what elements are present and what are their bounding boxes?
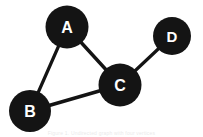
- graph-node-label-d: D: [167, 28, 178, 45]
- graph-node-label-a: A: [61, 19, 73, 36]
- graph-nodes-layer: ABCD: [9, 6, 191, 133]
- graph-node-b[interactable]: B: [9, 90, 51, 132]
- graph-node-c[interactable]: C: [99, 64, 142, 107]
- graph-figure: ABCD Figure 1. Undirected graph with fou…: [0, 0, 203, 137]
- graph-node-d[interactable]: D: [153, 17, 191, 55]
- graph-node-label-c: C: [114, 77, 126, 94]
- graph-node-label-b: B: [24, 103, 36, 120]
- graph-canvas: ABCD: [0, 0, 203, 137]
- figure-caption: Figure 1. Undirected graph with four ver…: [0, 129, 203, 137]
- graph-node-a[interactable]: A: [46, 6, 89, 49]
